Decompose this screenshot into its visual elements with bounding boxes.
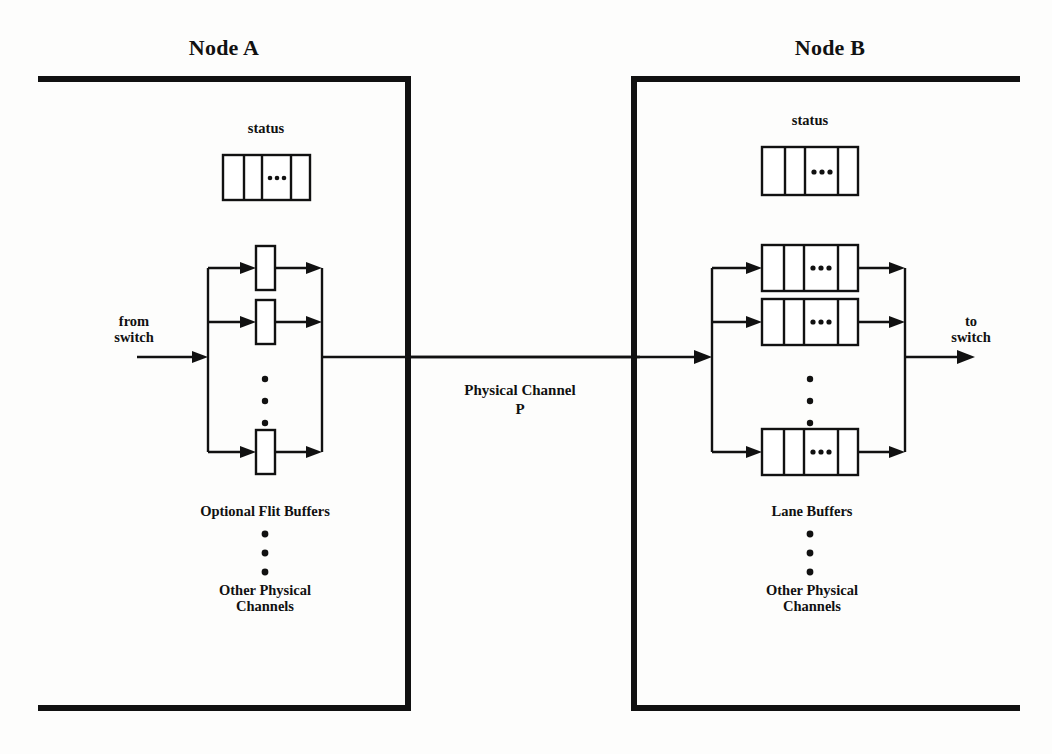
node-b-status-register xyxy=(762,147,858,195)
node-a-flit-buffer-network xyxy=(137,246,640,474)
diagram-vector-layer xyxy=(0,0,1052,754)
node-a-more-channels-ellipsis xyxy=(262,531,269,576)
node-b-lane-buffer-network xyxy=(712,245,975,475)
lane-buffer-3 xyxy=(762,429,858,475)
node-a-status-register xyxy=(223,155,310,200)
lane-buffer-2 xyxy=(762,299,858,345)
physical-channel-link xyxy=(408,350,712,364)
node-b-more-channels-ellipsis xyxy=(807,531,814,576)
diagram-canvas: Node A Node B status status from switch … xyxy=(0,0,1052,754)
lane-buffer-1 xyxy=(762,245,858,291)
